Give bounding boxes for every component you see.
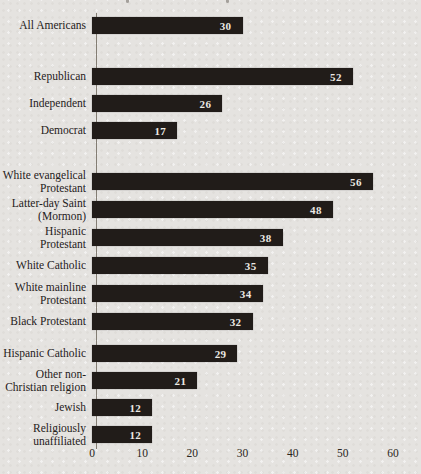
bar-row: Religiously unaffiliated 12 xyxy=(0,426,421,443)
bar-category-label: Hispanic Protestant xyxy=(0,225,92,250)
bar-track: 48 xyxy=(92,201,393,218)
bar-row: White Catholic 35 xyxy=(0,257,421,274)
bar-category-label: Republican xyxy=(0,70,92,83)
bar-value-label: 48 xyxy=(310,204,333,216)
bar-chart-figure: All Americans 30 Republican 52 Independe… xyxy=(0,0,421,474)
x-axis-tick-label: 60 xyxy=(387,447,399,459)
bar-row: Other non- Christian religion 21 xyxy=(0,372,421,389)
bar-track: 32 xyxy=(92,313,393,330)
bar-value-label: 21 xyxy=(175,375,198,387)
bar-row: All Americans 30 xyxy=(0,17,421,34)
bar-track: 29 xyxy=(92,345,393,362)
bar-row: Latter-day Saint (Mormon) 48 xyxy=(0,201,421,218)
bar: 34 xyxy=(92,285,263,302)
bar-value-label: 52 xyxy=(330,71,353,83)
bar: 56 xyxy=(92,173,373,190)
bar: 21 xyxy=(92,372,197,389)
bar: 12 xyxy=(92,426,152,443)
bar-value-label: 30 xyxy=(220,20,243,32)
bar-row: Black Protestant 32 xyxy=(0,313,421,330)
bar-category-label: All Americans xyxy=(0,19,92,32)
cropped-title-remnant xyxy=(126,0,129,3)
x-axis-tick-label: 30 xyxy=(237,447,249,459)
bar-track: 12 xyxy=(92,426,393,443)
bar-row: Hispanic Catholic 29 xyxy=(0,345,421,362)
bar-track: 17 xyxy=(92,122,393,139)
bar: 38 xyxy=(92,229,283,246)
bar-value-label: 35 xyxy=(245,260,268,272)
bar-row: Republican 52 xyxy=(0,68,421,85)
bar-value-label: 38 xyxy=(260,232,283,244)
bar-row: Hispanic Protestant 38 xyxy=(0,229,421,246)
bar: 30 xyxy=(92,17,243,34)
bar-category-label: Religiously unaffiliated xyxy=(0,422,92,447)
bar-track: 30 xyxy=(92,17,393,34)
bar-track: 12 xyxy=(92,399,393,416)
bar-category-label: Other non- Christian religion xyxy=(0,368,92,393)
cropped-title-remnant xyxy=(226,0,229,3)
bar: 52 xyxy=(92,68,353,85)
bar: 48 xyxy=(92,201,333,218)
x-axis-tick-label: 20 xyxy=(187,447,199,459)
bar: 26 xyxy=(92,95,222,112)
bar-category-label: Democrat xyxy=(0,124,92,137)
x-axis-tick-label: 40 xyxy=(287,447,299,459)
bar: 32 xyxy=(92,313,253,330)
bar-category-label: Jewish xyxy=(0,401,92,414)
bar: 17 xyxy=(92,122,177,139)
bar-track: 26 xyxy=(92,95,393,112)
bar-track: 38 xyxy=(92,229,393,246)
bar-category-label: White mainline Protestant xyxy=(0,281,92,306)
bar-track: 56 xyxy=(92,173,393,190)
x-axis-tick-label: 0 xyxy=(89,447,95,459)
x-axis-tick-label: 10 xyxy=(136,447,148,459)
bar-value-label: 12 xyxy=(129,429,152,441)
bar-track: 34 xyxy=(92,285,393,302)
bar-value-label: 56 xyxy=(350,176,373,188)
bar-category-label: Hispanic Catholic xyxy=(0,347,92,360)
bar-track: 52 xyxy=(92,68,393,85)
bar-row: White mainline Protestant 34 xyxy=(0,285,421,302)
bar-value-label: 34 xyxy=(240,288,263,300)
bar-category-label: Independent xyxy=(0,97,92,110)
bar: 29 xyxy=(92,345,237,362)
bar-value-label: 32 xyxy=(230,316,253,328)
bar-value-label: 17 xyxy=(154,125,177,137)
bar-row: Independent 26 xyxy=(0,95,421,112)
bar: 35 xyxy=(92,257,268,274)
bar-value-label: 29 xyxy=(215,348,238,360)
x-axis-tick-label: 50 xyxy=(337,447,349,459)
bar-row: Jewish 12 xyxy=(0,399,421,416)
bar-row: Democrat 17 xyxy=(0,122,421,139)
bar-value-label: 12 xyxy=(129,402,152,414)
bar-track: 21 xyxy=(92,372,393,389)
bar-category-label: White evangelical Protestant xyxy=(0,169,92,194)
bar-category-label: White Catholic xyxy=(0,259,92,272)
x-axis: 0102030405060 xyxy=(92,447,393,461)
bar-row: White evangelical Protestant 56 xyxy=(0,173,421,190)
bar-category-label: Black Protestant xyxy=(0,315,92,328)
scanned-book-page: { "page": { "background_color": "#e5e3e0… xyxy=(0,0,421,474)
bar-value-label: 26 xyxy=(200,98,223,110)
bar-category-label: Latter-day Saint (Mormon) xyxy=(0,197,92,222)
bar-track: 35 xyxy=(92,257,393,274)
bar: 12 xyxy=(92,399,152,416)
chart-rows: All Americans 30 Republican 52 Independe… xyxy=(0,0,421,443)
